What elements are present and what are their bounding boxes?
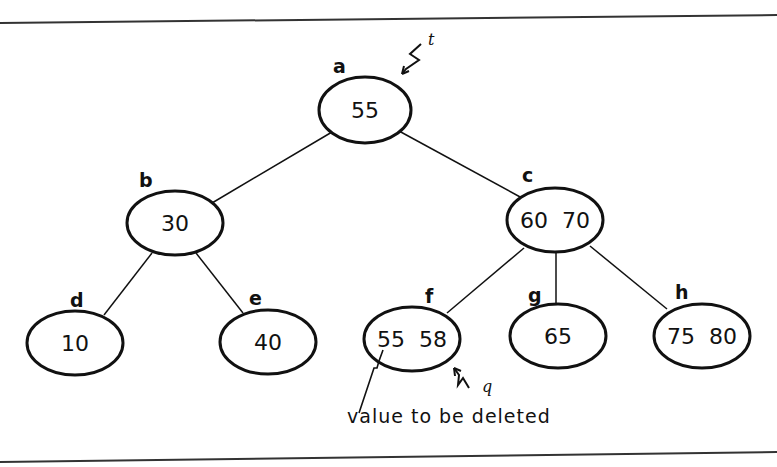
node-c-value: 60 70 <box>520 208 590 233</box>
edge-c-f <box>447 248 524 313</box>
node-d-label: d <box>70 289 84 311</box>
edge-c-h <box>590 246 667 309</box>
node-b-label: b <box>139 169 153 191</box>
bottom-border-line <box>0 452 777 462</box>
node-h-value: 75 80 <box>667 324 737 349</box>
node-g-value: 65 <box>544 324 572 349</box>
node-g: 65 g <box>510 284 606 368</box>
pointer-t: t <box>402 30 435 74</box>
edge-a-c <box>399 131 522 198</box>
node-e: 40 e <box>220 287 316 374</box>
node-d: 10 d <box>27 289 123 375</box>
node-e-value: 40 <box>254 330 282 355</box>
delete-arrow-line-icon <box>359 350 383 413</box>
pointer-q: q <box>454 368 492 396</box>
node-a-value: 55 <box>351 98 379 123</box>
node-f: 55 58 f <box>364 285 460 371</box>
tree-diagram: 55 a 30 b 60 70 c 10 d 40 e 55 58 f 65 g… <box>0 0 777 467</box>
node-h: 75 80 h <box>654 281 750 368</box>
delete-value-arrow <box>359 350 383 413</box>
node-a: 55 a <box>319 55 411 143</box>
pointer-t-squiggle-icon <box>402 44 421 74</box>
top-border-line <box>0 15 777 23</box>
node-f-value: 55 58 <box>377 327 447 352</box>
node-b: 30 b <box>127 169 223 255</box>
node-f-label: f <box>425 285 434 307</box>
node-a-label: a <box>333 55 346 77</box>
node-d-value: 10 <box>61 331 89 356</box>
pointer-q-squiggle-icon <box>454 368 469 388</box>
node-b-value: 30 <box>161 211 189 236</box>
edge-b-e <box>196 253 243 313</box>
edge-a-b <box>212 132 332 203</box>
node-c: 60 70 c <box>507 164 603 252</box>
edge-b-d <box>104 253 152 315</box>
caption-value-to-be-deleted: value to be deleted <box>347 405 551 427</box>
node-g-label: g <box>528 284 542 306</box>
pointer-t-label: t <box>428 30 435 49</box>
node-h-label: h <box>675 281 689 303</box>
node-c-label: c <box>522 164 533 186</box>
node-e-label: e <box>249 287 262 309</box>
pointer-q-label: q <box>482 377 492 396</box>
